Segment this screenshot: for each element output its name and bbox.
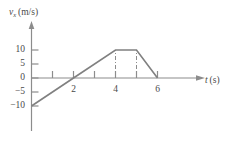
plot-canvas <box>0 0 229 141</box>
y-axis-ticks <box>32 50 39 106</box>
x-axis-symbol: t <box>205 75 208 85</box>
y-axis-title: vx (m/s) <box>9 8 38 19</box>
x-tick-label-2: 2 <box>66 85 82 95</box>
x-tick-label-4: 4 <box>108 85 124 95</box>
y-tick-label-0: 0 <box>3 73 25 83</box>
y-axis-arrowhead <box>29 21 35 29</box>
x-axis-ticks <box>53 71 158 78</box>
x-tick-label-6: 6 <box>150 85 166 95</box>
y-tick-label-neg10: −10 <box>3 101 25 111</box>
x-axis-title: t (s) <box>205 76 220 86</box>
x-axis-units: (s) <box>210 75 220 85</box>
x-axis-arrowhead <box>196 75 205 81</box>
droplines <box>116 50 137 78</box>
y-tick-label-5: 5 <box>3 59 25 69</box>
velocity-time-graph: vx (m/s) t (s) 10 5 0 −5 −10 2 4 6 <box>0 0 229 141</box>
y-tick-label-10: 10 <box>3 45 25 55</box>
y-axis-units: (m/s) <box>18 7 38 17</box>
y-tick-label-neg5: −5 <box>3 87 25 97</box>
y-axis-subscript: x <box>13 11 16 18</box>
